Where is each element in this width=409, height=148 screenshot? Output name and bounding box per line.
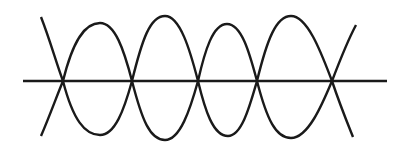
wave-b bbox=[41, 25, 356, 140]
standing-wave-diagram bbox=[0, 0, 409, 148]
wave-a bbox=[41, 16, 353, 137]
